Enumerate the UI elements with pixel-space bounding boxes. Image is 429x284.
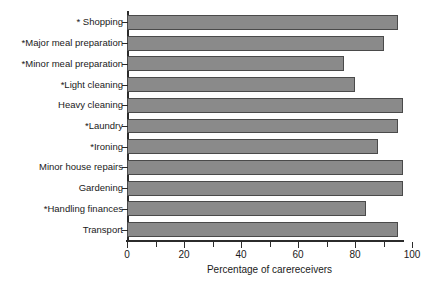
category-label: *Handling finances bbox=[44, 203, 123, 214]
y-axis-tick bbox=[122, 126, 128, 127]
bar-row bbox=[127, 201, 412, 216]
x-axis-ticks bbox=[127, 242, 412, 249]
category-label: Heavy cleaning bbox=[58, 99, 123, 110]
bar bbox=[127, 36, 384, 51]
y-axis-tick bbox=[122, 188, 128, 189]
x-axis-title-text: Percentage of carereceivers bbox=[97, 264, 332, 275]
category-label: Transport bbox=[83, 224, 123, 235]
x-axis-tick-label: 60 bbox=[292, 249, 303, 260]
y-axis-tick bbox=[122, 64, 128, 65]
bar-row bbox=[127, 119, 412, 134]
x-axis-minor-tick bbox=[156, 242, 157, 247]
bar-chart: * Shopping*Major meal preparation*Minor … bbox=[0, 0, 429, 284]
category-label: *Light cleaning bbox=[61, 79, 123, 90]
y-axis-tick bbox=[122, 209, 128, 210]
x-axis-tick-label: 0 bbox=[124, 249, 130, 260]
y-axis-tick bbox=[122, 22, 128, 23]
bar bbox=[127, 56, 344, 71]
category-label: *Ironing bbox=[90, 141, 123, 152]
bar-row bbox=[127, 15, 412, 30]
x-axis-tick-label: 100 bbox=[404, 249, 421, 260]
x-axis-minor-tick bbox=[384, 242, 385, 247]
category-label: *Laundry bbox=[85, 120, 123, 131]
bar bbox=[127, 201, 366, 216]
category-label: *Minor meal preparation bbox=[22, 58, 123, 69]
bar bbox=[127, 222, 398, 237]
x-axis-major-tick bbox=[127, 242, 128, 248]
category-label: *Major meal preparation bbox=[22, 37, 123, 48]
bar bbox=[127, 15, 398, 30]
bar bbox=[127, 98, 403, 113]
bar-row bbox=[127, 160, 412, 175]
x-axis-tick-label: 40 bbox=[235, 249, 246, 260]
x-axis-tick-label: 80 bbox=[349, 249, 360, 260]
x-axis-major-tick bbox=[298, 242, 299, 248]
category-label: * Shopping bbox=[77, 16, 123, 27]
x-axis-minor-tick bbox=[270, 242, 271, 247]
bar bbox=[127, 181, 403, 196]
x-axis-major-tick bbox=[412, 242, 413, 248]
bar bbox=[127, 139, 378, 154]
y-axis-tick bbox=[122, 43, 128, 44]
x-axis-minor-tick bbox=[327, 242, 328, 247]
category-axis-labels: * Shopping*Major meal preparation*Minor … bbox=[0, 12, 123, 240]
bar bbox=[127, 160, 403, 175]
bar bbox=[127, 119, 398, 134]
category-label: Minor house repairs bbox=[39, 161, 123, 172]
bar-row bbox=[127, 181, 412, 196]
x-axis-tick-label: 20 bbox=[178, 249, 189, 260]
y-axis-tick bbox=[122, 147, 128, 148]
bar-row bbox=[127, 98, 412, 113]
x-axis-title: Percentage of carereceivers bbox=[0, 264, 429, 275]
x-axis-minor-tick bbox=[213, 242, 214, 247]
x-axis-major-tick bbox=[184, 242, 185, 248]
plot-area bbox=[127, 12, 412, 240]
bar-row bbox=[127, 222, 412, 237]
y-axis-tick bbox=[122, 105, 128, 106]
category-label: Gardening bbox=[79, 182, 123, 193]
y-axis-tick bbox=[122, 230, 128, 231]
bar-row bbox=[127, 139, 412, 154]
y-axis-tick bbox=[122, 85, 128, 86]
y-axis-tick bbox=[122, 167, 128, 168]
bar-row bbox=[127, 56, 412, 71]
x-axis-major-tick bbox=[241, 242, 242, 248]
bar-row bbox=[127, 36, 412, 51]
x-axis-major-tick bbox=[355, 242, 356, 248]
bar-row bbox=[127, 77, 412, 92]
bar bbox=[127, 77, 355, 92]
